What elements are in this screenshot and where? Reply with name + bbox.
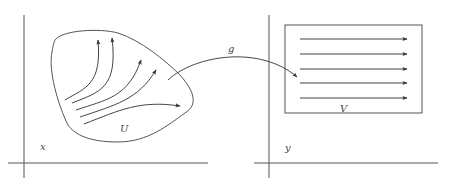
region-u-label: U xyxy=(120,123,129,134)
u-flow-lines xyxy=(65,38,180,124)
map-g-arrow xyxy=(168,57,297,80)
u-flow-line-5 xyxy=(84,104,180,124)
left-axes xyxy=(8,15,208,178)
right-space-label: y xyxy=(284,142,291,153)
region-v-label: V xyxy=(340,103,349,114)
map-g-label: g xyxy=(228,43,234,54)
v-flow-lines xyxy=(300,39,407,98)
diffeomorphism-diagram: U x g V y xyxy=(0,0,451,186)
u-flow-line-3 xyxy=(76,60,141,110)
left-space-label: x xyxy=(40,141,46,152)
u-flow-line-1 xyxy=(65,40,99,100)
u-flow-line-2 xyxy=(72,38,113,103)
